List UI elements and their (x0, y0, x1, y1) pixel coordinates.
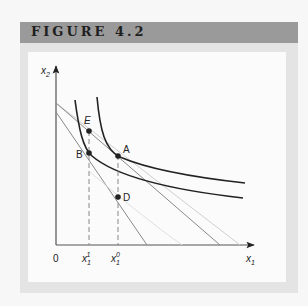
point-E (86, 128, 92, 134)
origin-label: 0 (53, 253, 59, 264)
tick-label-x1-0: x10 (110, 251, 120, 266)
label-B: B (76, 149, 83, 160)
tick-label-x1-1: x11 (81, 251, 91, 266)
label-D: D (123, 192, 130, 203)
budget-line-steep (56, 112, 147, 245)
indifference-curve-higher (97, 97, 245, 183)
indifference-curve-lower (75, 100, 243, 198)
point-D (115, 194, 121, 200)
point-A (115, 153, 121, 159)
budget-line-through-E-A (56, 103, 220, 245)
y-axis-label: x2 (40, 65, 50, 78)
label-A: A (123, 144, 130, 155)
x-axis-label: x1 (245, 253, 255, 266)
economics-diagram: E B A D x2 x1 0 x11 x10 (0, 0, 308, 306)
point-B (86, 150, 92, 156)
label-E: E (84, 115, 91, 126)
faint-curve (90, 172, 182, 245)
